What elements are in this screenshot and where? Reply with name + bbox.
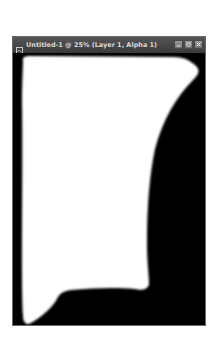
- maximize-icon: [186, 42, 191, 47]
- image-canvas[interactable]: [13, 53, 205, 325]
- window-controls: [174, 40, 203, 49]
- close-icon: [196, 42, 201, 47]
- alpha-mask-shape: [13, 53, 205, 325]
- close-button[interactable]: [194, 40, 203, 49]
- window-title: Untitled-1 @ 25% (Layer 1, Alpha 1): [26, 41, 157, 49]
- minimize-button[interactable]: [174, 40, 183, 49]
- title-bar[interactable]: Untitled-1 @ 25% (Layer 1, Alpha 1): [13, 37, 205, 53]
- minimize-icon: [176, 42, 181, 47]
- document-icon: [16, 41, 23, 49]
- maximize-button[interactable]: [184, 40, 193, 49]
- document-window[interactable]: Untitled-1 @ 25% (Layer 1, Alpha 1): [12, 36, 206, 326]
